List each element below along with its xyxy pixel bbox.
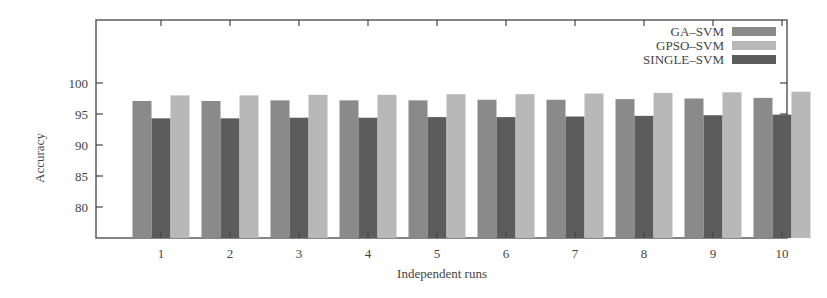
legend-label: GPSO–SVM xyxy=(656,38,724,53)
bar-singlesvm xyxy=(221,118,240,238)
x-tick-label: 1 xyxy=(158,246,165,261)
bar-gpsosvm xyxy=(585,94,604,238)
legend-swatch xyxy=(732,41,776,50)
bar-gpsosvm xyxy=(240,95,259,238)
legend-swatch xyxy=(732,55,776,64)
x-tick-label: 3 xyxy=(296,246,303,261)
bar-gpsosvm xyxy=(447,94,466,238)
x-tick-label: 6 xyxy=(503,246,510,261)
bar-gpsosvm xyxy=(723,92,742,238)
bar-chart: 8085909510012345678910GA–SVMGPSO–SVMSING… xyxy=(0,0,827,298)
bar-gasvm xyxy=(547,100,566,238)
x-tick-label: 4 xyxy=(365,246,372,261)
bar-gpsosvm xyxy=(792,92,811,238)
x-tick-label: 8 xyxy=(641,246,648,261)
bar-singlesvm xyxy=(152,118,171,238)
x-tick-label: 2 xyxy=(227,246,234,261)
bar-singlesvm xyxy=(773,115,792,238)
bar-gasvm xyxy=(340,100,359,238)
bar-gasvm xyxy=(133,101,152,238)
bar-gpsosvm xyxy=(654,93,673,238)
y-tick-label: 100 xyxy=(69,76,89,91)
bar-gasvm xyxy=(409,100,428,238)
bar-gpsosvm xyxy=(171,95,190,238)
bar-singlesvm xyxy=(704,115,723,238)
bar-gasvm xyxy=(478,100,497,238)
bar-gpsosvm xyxy=(516,94,535,238)
bar-gasvm xyxy=(616,99,635,238)
bar-singlesvm xyxy=(635,116,654,238)
x-tick-label: 9 xyxy=(710,246,717,261)
bar-gasvm xyxy=(754,98,773,238)
legend-swatch xyxy=(732,27,776,36)
x-axis-title: Independent runs xyxy=(397,266,487,281)
plot-area: 8085909510012345678910GA–SVMGPSO–SVMSING… xyxy=(69,20,811,261)
bar-singlesvm xyxy=(359,118,378,238)
x-tick-label: 10 xyxy=(776,246,789,261)
y-axis-title: Accuracy xyxy=(32,133,47,183)
bar-singlesvm xyxy=(428,117,447,238)
y-tick-label: 85 xyxy=(75,169,88,184)
bar-gpsosvm xyxy=(378,95,397,238)
bar-gasvm xyxy=(685,99,704,239)
y-tick-label: 90 xyxy=(75,138,88,153)
bar-gpsosvm xyxy=(309,95,328,238)
bar-gasvm xyxy=(202,101,221,238)
legend-label: GA–SVM xyxy=(671,24,725,39)
bar-singlesvm xyxy=(290,118,309,238)
x-tick-label: 7 xyxy=(572,246,579,261)
bar-singlesvm xyxy=(566,116,585,238)
legend-label: SINGLE–SVM xyxy=(643,52,724,67)
y-tick-label: 80 xyxy=(75,200,88,215)
x-tick-label: 5 xyxy=(434,246,441,261)
bar-gasvm xyxy=(271,100,290,238)
y-tick-label: 95 xyxy=(75,107,88,122)
bar-singlesvm xyxy=(497,117,516,238)
